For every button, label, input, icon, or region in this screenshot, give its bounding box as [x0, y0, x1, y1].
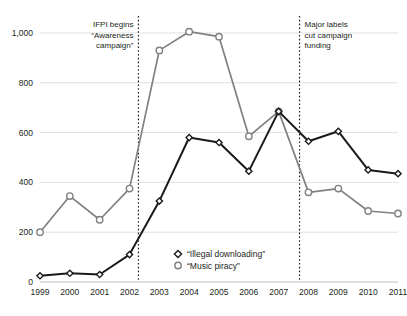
y-axis-tick-labels: 02004006008001,000 [12, 28, 34, 287]
x-axis-tick-label: 2007 [269, 287, 288, 297]
gridlines [40, 33, 398, 282]
data-point-marker [174, 250, 181, 257]
legend-item: “Illegal downloading” [174, 249, 265, 259]
x-axis-tick-labels: 1999200020012002200320042005200620072008… [31, 287, 407, 297]
data-point-marker [395, 171, 401, 177]
data-point-marker [37, 273, 43, 279]
data-point-marker [37, 229, 43, 235]
annotation-line: cut campaign [305, 31, 353, 40]
annotation-line: “Awareness [91, 31, 133, 40]
data-point-marker [395, 210, 401, 216]
series-music-piracy [37, 28, 401, 235]
annotation-ifpi-campaign: IFPI begins“Awarenesscampaign” [91, 20, 133, 50]
x-axis-tick-label: 2009 [329, 287, 348, 297]
x-axis-tick-label: 2004 [180, 287, 199, 297]
x-axis-tick-label: 2011 [389, 287, 407, 297]
data-point-marker [126, 185, 132, 191]
series-line [40, 32, 398, 232]
data-series [37, 28, 401, 278]
chart-legend: “Illegal downloading”“Music piracy” [174, 249, 265, 271]
data-point-marker [156, 47, 162, 53]
x-axis-tick-label: 2000 [60, 287, 79, 297]
data-point-marker [305, 189, 311, 195]
y-axis-tick-label: 0 [28, 277, 33, 287]
annotation-line: IFPI begins [93, 20, 133, 29]
x-axis-tick-label: 2010 [359, 287, 378, 297]
data-point-marker [67, 193, 73, 199]
y-axis-tick-label: 800 [19, 78, 33, 88]
chart-container: 02004006008001,000 199920002001200220032… [0, 0, 407, 316]
y-axis-tick-label: 600 [19, 128, 33, 138]
x-axis-tick-label: 2002 [120, 287, 139, 297]
y-axis-tick-label: 400 [19, 177, 33, 187]
data-point-marker [186, 28, 192, 34]
legend-item: “Music piracy” [175, 261, 240, 271]
data-point-marker [216, 33, 222, 39]
data-point-marker [67, 270, 73, 276]
data-point-marker [186, 134, 192, 140]
annotation-line: campaign” [96, 41, 134, 50]
data-point-marker [175, 262, 181, 268]
annotation-line: Major labels [305, 20, 348, 29]
data-point-marker [365, 208, 371, 214]
x-axis-tick-label: 2006 [239, 287, 258, 297]
x-axis-tick-label: 2001 [90, 287, 109, 297]
data-point-marker [246, 133, 252, 139]
x-axis-tick-label: 1999 [31, 287, 50, 297]
legend-label: “Music piracy” [187, 261, 240, 271]
data-point-marker [96, 217, 102, 223]
data-point-marker [335, 185, 341, 191]
x-axis-tick-label: 2008 [299, 287, 318, 297]
y-axis-tick-label: 200 [19, 227, 33, 237]
event-marker-lines [138, 16, 299, 282]
y-axis-tick-label: 1,000 [12, 28, 34, 38]
annotation-major-labels-cut: Major labelscut campaignfunding [305, 20, 353, 50]
annotation-line: funding [305, 41, 331, 50]
legend-label: “Illegal downloading” [187, 249, 265, 259]
line-chart: 02004006008001,000 199920002001200220032… [0, 0, 407, 316]
x-axis-tick-label: 2005 [210, 287, 229, 297]
x-axis-tick-label: 2003 [150, 287, 169, 297]
